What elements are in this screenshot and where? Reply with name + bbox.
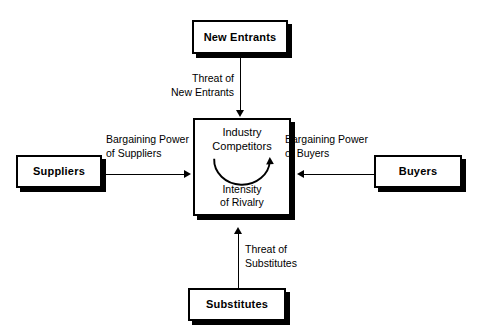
industry-competitors-title-line2: Competitors	[212, 140, 271, 152]
new-entrants-label: New Entrants	[204, 31, 277, 44]
industry-competitors-sub-line2: of Rivalry	[220, 196, 264, 208]
bargaining-power-of-buyers-line2: of Buyers	[285, 147, 329, 159]
bargaining-power-of-buyers-line1: Bargaining Power	[285, 133, 368, 145]
threat-of-substitutes-line1: Threat of	[245, 243, 287, 255]
diagram-canvas: New Entrants Threat ofNew Entrants Suppl…	[0, 0, 480, 336]
node-new-entrants[interactable]: New Entrants	[192, 20, 288, 54]
threat-of-new-entrants-line2: New Entrants	[171, 86, 234, 98]
suppliers-label: Suppliers	[33, 165, 85, 178]
industry-competitors-title-line1: Industry	[222, 126, 261, 138]
edge-arrowhead-threat-of-substitutes	[234, 227, 242, 234]
node-industry-competitors[interactable]: IndustryCompetitors Intensityof Rivalry	[193, 118, 291, 216]
threat-of-substitutes-line2: Substitutes	[245, 257, 297, 269]
edge-line-bargaining-power-of-buyers	[303, 174, 374, 175]
edge-line-threat-of-substitutes	[238, 233, 239, 288]
edge-arrowhead-bargaining-power-of-suppliers	[184, 170, 191, 178]
bargaining-power-of-suppliers-line1: Bargaining Power	[106, 133, 189, 145]
industry-competitors-sub-line1: Intensity	[222, 183, 261, 195]
buyers-label: Buyers	[399, 165, 438, 178]
edge-label-threat-of-new-entrants: Threat ofNew Entrants	[150, 72, 234, 99]
edge-label-bargaining-power-of-buyers: Bargaining Powerof Buyers	[285, 133, 385, 160]
edge-label-threat-of-substitutes: Threat ofSubstitutes	[245, 243, 335, 270]
node-substitutes[interactable]: Substitutes	[188, 288, 286, 321]
edge-arrowhead-bargaining-power-of-buyers	[297, 170, 304, 178]
edge-line-bargaining-power-of-suppliers	[102, 174, 185, 175]
industry-competitors-subtitle: Intensityof Rivalry	[195, 183, 289, 209]
substitutes-label: Substitutes	[206, 298, 268, 311]
edge-label-bargaining-power-of-suppliers: Bargaining Powerof Suppliers	[106, 133, 202, 160]
edge-arrowhead-threat-of-new-entrants	[236, 110, 244, 117]
threat-of-new-entrants-line1: Threat of	[192, 72, 234, 84]
bargaining-power-of-suppliers-line2: of Suppliers	[106, 147, 161, 159]
node-buyers[interactable]: Buyers	[374, 155, 462, 188]
node-suppliers[interactable]: Suppliers	[16, 155, 102, 188]
industry-competitors-title: IndustryCompetitors	[212, 126, 271, 154]
edge-line-threat-of-new-entrants	[240, 56, 241, 112]
